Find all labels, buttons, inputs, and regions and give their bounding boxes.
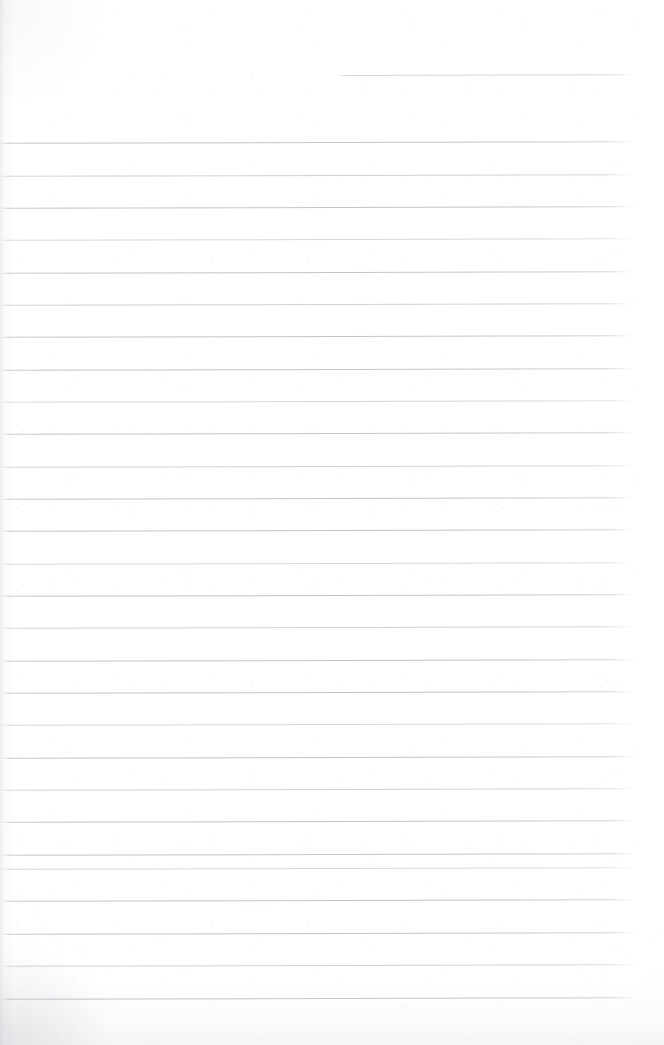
ruling-line — [0, 626, 633, 628]
scanned-page: Blank ruled notebook page, scanned — [0, 0, 664, 1045]
scan-smudge-bottom-left — [0, 951, 108, 1045]
ruling-line — [0, 174, 632, 176]
scan-edge-shadow-left — [0, 0, 14, 1045]
ruling-line — [1, 932, 634, 934]
page-description: Blank ruled notebook page, scanned — [0, 0, 1, 1]
ruling-line — [1, 997, 634, 999]
paper-grain-texture — [0, 0, 664, 1045]
ruling-line — [0, 400, 633, 402]
ruling-line — [0, 691, 633, 693]
ruling-line — [1, 853, 634, 855]
ruling-line — [0, 659, 633, 661]
ruling-line — [0, 303, 633, 305]
ruling-line — [1, 820, 634, 822]
ruling-line — [0, 368, 633, 370]
ruling-line — [0, 529, 633, 531]
ruling-line — [0, 141, 632, 143]
ruling-line — [0, 465, 633, 467]
ruling-line — [0, 497, 633, 499]
ruling-line — [0, 594, 633, 596]
ruling-line — [0, 206, 632, 208]
ruling-line — [1, 867, 634, 869]
ruling-line — [0, 432, 633, 434]
ruling-lines-layer — [0, 0, 664, 1045]
ruling-line — [0, 562, 633, 564]
ruling-line — [0, 238, 632, 240]
ruling-line — [339, 74, 632, 76]
scan-wash-top-left — [0, 0, 110, 110]
ruling-line — [1, 899, 634, 901]
scan-edge-shadow-bottom — [0, 985, 664, 1045]
ruling-line — [1, 788, 634, 790]
ruling-line — [0, 271, 632, 273]
ruling-line — [1, 964, 634, 966]
paper-background — [0, 0, 664, 1045]
ruling-line — [1, 756, 634, 758]
ruling-line — [0, 335, 633, 337]
ruling-line — [0, 723, 633, 725]
